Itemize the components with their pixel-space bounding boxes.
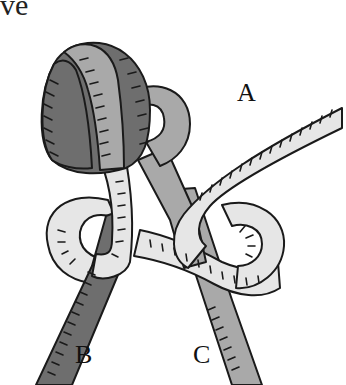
- rope-a: [174, 108, 342, 268]
- label-b: B: [75, 340, 92, 370]
- label-c: C: [193, 340, 210, 370]
- label-a: A: [237, 78, 256, 108]
- knot-diagram: [0, 0, 346, 385]
